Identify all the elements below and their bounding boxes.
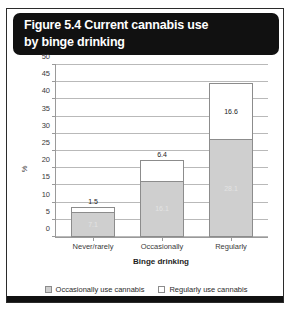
y-tick-label: 50: [42, 52, 50, 61]
y-tick-mark: [52, 167, 56, 168]
x-tick-mark: [162, 237, 163, 241]
y-tick-mark: [52, 219, 56, 220]
y-tick-label: 35: [42, 103, 50, 112]
y-tick-mark: [52, 202, 56, 203]
y-tick-mark: [52, 116, 56, 117]
bar-segment-occasionally[interactable]: 28.1: [209, 140, 253, 237]
legend-item-occasionally[interactable]: Occasionally use cannabis: [45, 285, 145, 294]
figure-title-banner: Figure 5.4 Current cannabis use by binge…: [13, 13, 279, 55]
bar-segment-label-occasionally: 7.1: [88, 221, 98, 228]
y-tick-label: 30: [42, 120, 50, 129]
bar-group-regularly[interactable]: 16.6 28.1: [209, 83, 253, 237]
y-tick-label: 25: [42, 138, 50, 147]
y-tick-mark: [52, 236, 56, 237]
legend-swatch-icon: [45, 286, 52, 293]
gridline: [56, 81, 268, 82]
legend-swatch-icon: [158, 286, 165, 293]
bar-segment-regularly[interactable]: [140, 160, 184, 182]
y-tick-mark: [52, 98, 56, 99]
bar-group-never-rarely[interactable]: 1.5 7.1: [71, 207, 115, 237]
footer-band: [7, 296, 283, 302]
y-tick-label: 40: [42, 86, 50, 95]
x-axis-title: Binge drinking: [55, 257, 267, 266]
y-tick-label: 45: [42, 69, 50, 78]
y-tick-label: 0: [46, 224, 50, 233]
figure-title-line-1: Figure 5.4 Current cannabis use: [24, 17, 269, 34]
bar-segment-label-occasionally: 28.1: [224, 185, 238, 192]
figure-title-line-2: by binge drinking: [24, 34, 269, 51]
x-tick-mark: [231, 237, 232, 241]
figure-frame: Figure 5.4 Current cannabis use by binge…: [6, 8, 284, 303]
y-axis-title: %: [20, 166, 29, 173]
y-tick-mark: [52, 81, 56, 82]
plot-area: 0 5 10 15 20 25 30 35 40: [55, 65, 268, 238]
legend-label-occasionally: Occasionally use cannabis: [56, 285, 145, 294]
bar-segment-occasionally[interactable]: 16.1: [140, 182, 184, 237]
x-tick-label-regularly: Regularly: [186, 242, 276, 251]
y-tick-mark: [52, 64, 56, 65]
bar-segment-occasionally[interactable]: 7.1: [71, 213, 115, 237]
chart-panel: % 0 5 10 15 20 25 30: [13, 57, 279, 281]
y-tick-mark: [52, 150, 56, 151]
y-tick-label: 20: [42, 155, 50, 164]
legend-label-regularly: Regularly use cannabis: [169, 285, 247, 294]
y-tick-mark: [52, 133, 56, 134]
bar-segment-regularly[interactable]: 16.6: [209, 83, 253, 140]
gridline: [56, 64, 268, 65]
x-tick-mark: [93, 237, 94, 241]
bar-segment-label-regularly: 6.4: [140, 151, 184, 158]
bar-segment-label-regularly: 16.6: [224, 108, 238, 115]
bar-segment-label-regularly: 1.5: [71, 198, 115, 205]
y-tick-label: 15: [42, 172, 50, 181]
bar-group-occasionally[interactable]: 6.4 16.1: [140, 160, 184, 237]
legend-item-regularly[interactable]: Regularly use cannabis: [158, 285, 247, 294]
y-tick-mark: [52, 184, 56, 185]
y-tick-label: 5: [46, 206, 50, 215]
bar-segment-label-occasionally: 16.1: [155, 205, 169, 212]
y-tick-label: 10: [42, 189, 50, 198]
